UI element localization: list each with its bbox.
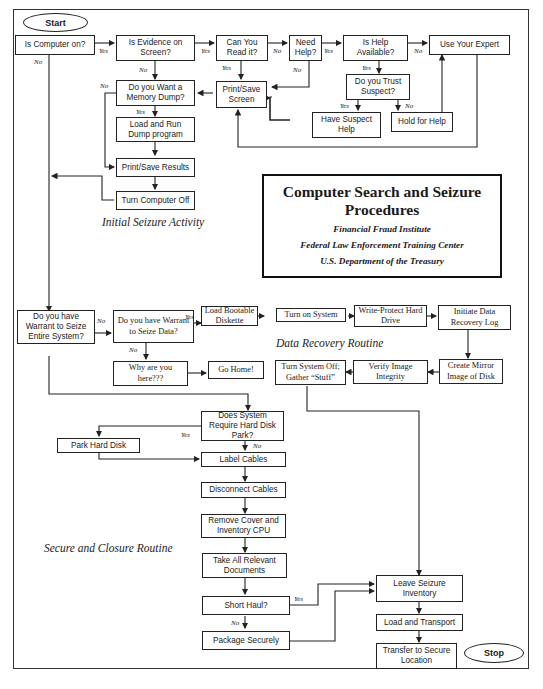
edge-label-yes: Yes <box>324 47 333 55</box>
edge-label-no: No <box>253 442 261 450</box>
node-package-securely[interactable]: Package Securely <box>202 631 290 650</box>
node-initiate-log[interactable]: Initiate Data Recovery Log <box>438 305 511 330</box>
node-require-park[interactable]: Does System Require Hard Disk Park? <box>201 411 284 441</box>
edge-label-yes: Yes <box>181 431 190 439</box>
node-load-transport[interactable]: Load and Transport <box>376 614 463 631</box>
edge-label-yes: Yes <box>222 64 231 72</box>
start-terminal[interactable]: Start <box>23 13 88 32</box>
org-financial-fraud-institute: Financial Fraud Institute <box>264 224 500 234</box>
node-take-documents[interactable]: Take All Relevant Documents <box>202 553 287 578</box>
node-load-run-dump[interactable]: Load and Run Dump program <box>116 117 195 142</box>
node-go-home[interactable]: Go Home! <box>208 361 264 379</box>
node-create-mirror[interactable]: Create Mirror Image of Disk <box>439 359 503 384</box>
node-warrant-entire-system[interactable]: Do you have Warrant to Seize Entire Syst… <box>17 310 95 344</box>
edge-label-yes: Yes <box>201 47 210 55</box>
org-fletc: Federal Law Enforcement Training Center <box>264 240 500 250</box>
edge-label-no: No <box>97 317 105 325</box>
edge-label-yes: Yes <box>99 47 108 55</box>
node-turn-system-off[interactable]: Turn System Off; Gather “Stuff” <box>275 360 346 385</box>
edge-label-no: No <box>34 58 42 66</box>
title-line-2: Procedures <box>264 202 500 218</box>
edge-label-yes: Yes <box>136 108 145 116</box>
node-can-you-read[interactable]: Can You Read it? <box>216 35 268 61</box>
edge-label-no: No <box>129 346 137 354</box>
node-disconnect-cables[interactable]: Disconnect Cables <box>201 482 286 498</box>
org-treasury: U.S. Department of the Treasury <box>264 256 500 266</box>
node-leave-inventory[interactable]: Leave Seizure Inventory <box>376 575 463 602</box>
edge-label-yes: Yes <box>294 595 303 603</box>
edge-label-no: No <box>293 66 301 74</box>
node-why-here[interactable]: Why are you here??? <box>113 361 188 386</box>
node-remove-cover[interactable]: Remove Cover and Inventory CPU <box>201 514 286 538</box>
node-memory-dump[interactable]: Do you Want a Memory Dump? <box>116 80 195 106</box>
section-label-recovery: Data Recovery Routine <box>276 337 383 349</box>
node-computer-on[interactable]: Is Computer on? <box>15 35 95 55</box>
node-write-protect[interactable]: Write-Protect Hard Drive <box>354 305 427 327</box>
node-use-expert[interactable]: Use Your Expert <box>429 35 510 55</box>
stop-terminal[interactable]: Stop <box>464 643 524 663</box>
edge-label-no: No <box>139 66 147 74</box>
node-short-haul[interactable]: Short Haul? <box>202 596 290 615</box>
section-label-closure: Secure and Closure Routine <box>44 542 173 554</box>
edge-label-yes: Yes <box>340 102 349 110</box>
node-need-help[interactable]: Need Help? <box>289 35 322 61</box>
node-turn-computer-off[interactable]: Turn Computer Off <box>116 191 195 210</box>
edge-label-yes: Yes <box>185 313 194 321</box>
node-print-save-screen[interactable]: Print/Save Screen <box>216 81 267 108</box>
node-turn-on-system[interactable]: Turn on System <box>276 308 346 322</box>
title-line-1: Computer Search and Seizure <box>264 184 500 200</box>
node-trust-suspect[interactable]: Do you Trust Suspect? <box>346 74 410 100</box>
title-box: Computer Search and Seizure Procedures F… <box>262 174 502 278</box>
node-park-disk[interactable]: Park Hard Disk <box>57 438 140 453</box>
section-label-initial: Initial Seizure Activity <box>102 216 204 228</box>
edge-label-no: No <box>100 82 108 90</box>
node-load-bootable[interactable]: Load Bootable Diskette <box>201 306 258 326</box>
node-print-save-results[interactable]: Print/Save Results <box>116 158 195 177</box>
edge-label-no: No <box>414 47 422 55</box>
node-label-cables[interactable]: Label Cables <box>201 452 286 467</box>
edge-label-yes: Yes <box>362 64 371 72</box>
node-hold-for-help[interactable]: Hold for Help <box>391 112 453 132</box>
node-have-suspect-help[interactable]: Have Suspect Help <box>312 112 381 138</box>
node-warrant-data[interactable]: Do you have Warrant to Seize Data? <box>113 310 194 343</box>
node-evidence-on-screen[interactable]: Is Evidence on Screen? <box>116 35 195 61</box>
node-transfer-secure[interactable]: Transfer to Secure Location <box>376 643 457 669</box>
edge-label-no: No <box>231 619 239 627</box>
edge-label-no: No <box>405 102 413 110</box>
node-help-available[interactable]: Is Help Available? <box>343 35 408 61</box>
node-verify-image[interactable]: Verify Image Integrity <box>353 360 428 384</box>
edge-label-no: No <box>273 47 281 55</box>
